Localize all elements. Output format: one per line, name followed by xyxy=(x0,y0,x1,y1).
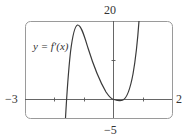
y-max-label: 20 xyxy=(104,4,116,16)
x-min-label: −3 xyxy=(5,93,18,105)
x-max-label: 2 xyxy=(176,93,182,105)
plot-canvas xyxy=(0,0,188,137)
function-label: y = f′(x) xyxy=(33,41,68,52)
plot-frame xyxy=(26,22,173,119)
derivative-curve xyxy=(66,21,140,118)
y-min-label: −5 xyxy=(104,124,117,136)
derivative-graph: y = f′(x) 20 −5 −3 2 xyxy=(0,0,188,137)
